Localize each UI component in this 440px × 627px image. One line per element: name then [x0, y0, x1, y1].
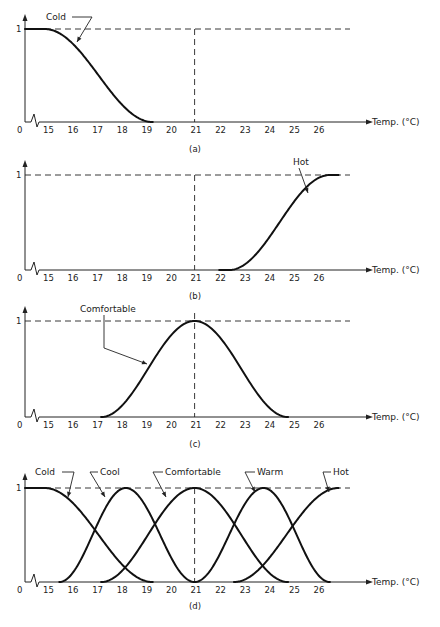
- curve-cold: [25, 29, 153, 122]
- x-origin-label: 0: [17, 273, 22, 283]
- curve-cool: [59, 488, 194, 582]
- panel-b: [23, 160, 374, 275]
- x-tick-label: 17: [92, 125, 103, 135]
- panel-caption: (d): [189, 601, 201, 611]
- y-axis-arrow-icon: [23, 14, 28, 21]
- leader-arrow-icon: [142, 360, 147, 364]
- panel-a: [23, 14, 374, 127]
- y-axis-arrow-icon: [23, 473, 28, 480]
- x-axis-title: Temp. (°C): [371, 117, 420, 127]
- fuzzy-membership-figure: 10151617181920212223242526Temp. (°C)(a)1…: [0, 0, 440, 627]
- x-tick-label: 21: [191, 585, 202, 595]
- x-tick-label: 25: [289, 585, 300, 595]
- x-tick-label: 17: [92, 420, 103, 430]
- x-tick-label: 15: [43, 585, 54, 595]
- y-tick-label: 1: [16, 483, 21, 493]
- leader-arrow-icon: [101, 492, 105, 497]
- x-tick-label: 26: [314, 273, 325, 283]
- curve-cold: [25, 488, 153, 582]
- x-tick-label: 23: [240, 585, 251, 595]
- x-origin-label: 0: [17, 585, 22, 595]
- x-tick-label: 23: [240, 273, 251, 283]
- x-tick-label: 22: [215, 420, 226, 430]
- x-tick-label: 16: [68, 273, 79, 283]
- curve-hot: [219, 175, 338, 270]
- leader-arrow-icon: [77, 37, 81, 42]
- curve-warm: [195, 488, 330, 582]
- panel-caption: (b): [189, 291, 201, 301]
- x-tick-label: 18: [117, 125, 128, 135]
- x-tick-label: 24: [264, 273, 275, 283]
- panel-caption: (c): [189, 439, 200, 449]
- label-cold: Cold: [35, 467, 55, 477]
- y-axis-arrow-icon: [23, 306, 28, 313]
- x-tick-label: 21: [191, 420, 202, 430]
- y-tick-label: 1: [16, 170, 21, 180]
- y-tick-label: 1: [16, 24, 21, 34]
- x-tick-label: 16: [68, 125, 79, 135]
- x-tick-label: 15: [43, 420, 54, 430]
- x-tick-label: 23: [240, 125, 251, 135]
- leader-arrow-icon: [67, 492, 71, 497]
- label-cool: Cool: [100, 467, 120, 477]
- x-tick-label: 25: [289, 420, 300, 430]
- x-axis-title: Temp. (°C): [371, 265, 420, 275]
- x-tick-label: 22: [215, 273, 226, 283]
- y-tick-label: 1: [16, 316, 21, 326]
- x-tick-label: 20: [166, 273, 177, 283]
- label-cold: Cold: [46, 12, 66, 22]
- x-tick-label: 20: [166, 125, 177, 135]
- x-tick-label: 17: [92, 585, 103, 595]
- panel-c: [23, 306, 374, 422]
- x-tick-label: 21: [191, 125, 202, 135]
- x-tick-label: 21: [191, 273, 202, 283]
- x-tick-label: 16: [68, 585, 79, 595]
- x-origin-label: 0: [17, 420, 22, 430]
- x-tick-label: 18: [117, 585, 128, 595]
- x-tick-label: 26: [314, 125, 325, 135]
- leader-line: [72, 17, 92, 42]
- y-axis-arrow-icon: [23, 160, 28, 167]
- x-tick-label: 16: [68, 420, 79, 430]
- x-tick-label: 19: [141, 420, 152, 430]
- x-tick-label: 17: [92, 273, 103, 283]
- x-tick-label: 25: [289, 273, 300, 283]
- leader-line: [104, 315, 147, 364]
- x-tick-label: 22: [215, 585, 226, 595]
- x-tick-label: 15: [43, 125, 54, 135]
- x-tick-label: 26: [314, 585, 325, 595]
- curve-hot: [234, 488, 339, 582]
- label-hot: Hot: [293, 157, 309, 167]
- x-tick-label: 24: [264, 585, 275, 595]
- label-comfortable: Comfortable: [165, 467, 221, 477]
- x-tick-label: 20: [166, 585, 177, 595]
- x-tick-label: 15: [43, 273, 54, 283]
- x-tick-label: 19: [141, 273, 152, 283]
- x-tick-label: 19: [141, 585, 152, 595]
- x-tick-label: 25: [289, 125, 300, 135]
- x-tick-label: 20: [166, 420, 177, 430]
- label-hot: Hot: [333, 467, 349, 477]
- label-warm: Warm: [257, 467, 283, 477]
- x-axis-title: Temp. (°C): [371, 577, 420, 587]
- panel-caption: (a): [189, 144, 201, 154]
- x-tick-label: 19: [141, 125, 152, 135]
- x-tick-label: 18: [117, 420, 128, 430]
- x-tick-label: 24: [264, 420, 275, 430]
- x-axis-title: Temp. (°C): [371, 412, 420, 422]
- panel-d: [23, 473, 374, 587]
- x-origin-label: 0: [17, 125, 22, 135]
- x-tick-label: 24: [264, 125, 275, 135]
- x-tick-label: 22: [215, 125, 226, 135]
- x-tick-label: 23: [240, 420, 251, 430]
- x-tick-label: 18: [117, 273, 128, 283]
- label-comfortable: Comfortable: [80, 304, 136, 314]
- x-tick-label: 26: [314, 420, 325, 430]
